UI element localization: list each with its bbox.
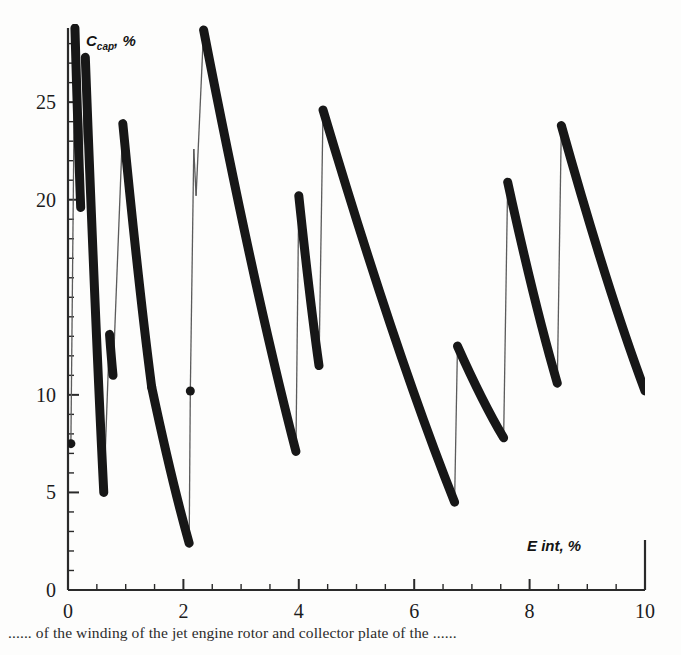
figure-container: 0246810 05102025 Ccap, % E int, % ......… — [0, 0, 681, 655]
y-tick-label: 25 — [36, 91, 56, 113]
x-tick-label: 8 — [525, 600, 535, 622]
x-axis-title: E int, % — [527, 537, 581, 554]
x-tick-label: 0 — [63, 600, 73, 622]
x-axis-ticks — [68, 579, 645, 590]
x-axis-tick-labels: 0246810 — [63, 600, 655, 622]
x-tick-label: 4 — [294, 600, 304, 622]
y-tick-label: 20 — [36, 189, 56, 211]
figure-caption: ...... of the winding of the jet engine … — [8, 624, 673, 642]
data-point-markers — [66, 386, 194, 448]
y-axis-title: Ccap, % — [86, 32, 136, 52]
y-tick-label: 0 — [46, 579, 56, 601]
x-tick-label: 6 — [409, 600, 419, 622]
x-tick-label: 2 — [178, 600, 188, 622]
data-series-curve — [75, 28, 645, 543]
y-tick-label: 10 — [36, 384, 56, 406]
x-tick-label: 10 — [635, 600, 655, 622]
y-tick-label: 5 — [46, 481, 56, 503]
data-connector-lines — [71, 28, 561, 543]
chart-plot: 0246810 05102025 Ccap, % E int, % — [0, 0, 681, 655]
y-axis-tick-labels: 05102025 — [36, 91, 56, 601]
